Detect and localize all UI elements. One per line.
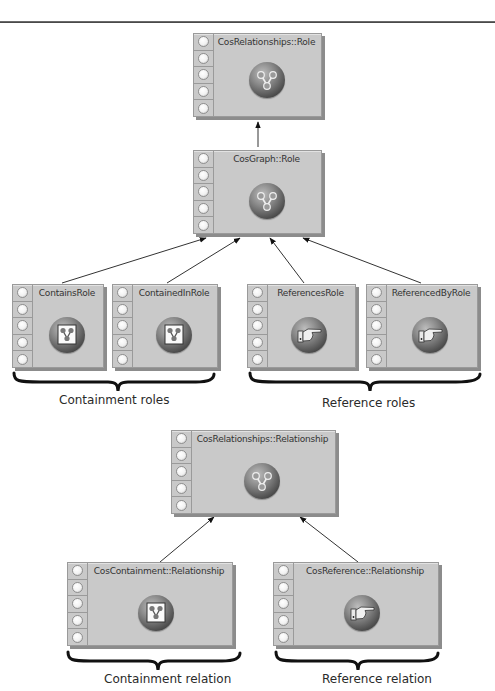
port[interactable] — [172, 464, 191, 481]
containment-icon — [49, 317, 85, 353]
port[interactable] — [113, 285, 132, 302]
port[interactable] — [194, 84, 213, 101]
port-column — [367, 285, 387, 367]
node-containedin-role[interactable]: ContainedInRole — [112, 284, 218, 368]
brace-reference-relation — [276, 652, 438, 670]
port[interactable] — [194, 201, 213, 218]
brace-reference-roles — [250, 373, 480, 391]
port[interactable] — [172, 431, 191, 448]
node-referencedby-role[interactable]: ReferencedByRole — [366, 284, 478, 368]
node-title: CosRelationships::Role — [214, 37, 319, 47]
brace-containment-roles — [14, 373, 214, 391]
port[interactable] — [367, 302, 386, 319]
port[interactable] — [274, 596, 293, 613]
pointing-hand-icon — [412, 317, 448, 353]
port-column — [194, 34, 214, 116]
port[interactable] — [248, 351, 267, 367]
port[interactable] — [367, 335, 386, 352]
node-title: ContainedInRole — [133, 288, 215, 298]
port[interactable] — [194, 184, 213, 201]
containment-icon — [156, 317, 192, 353]
port[interactable] — [68, 613, 87, 630]
port[interactable] — [194, 151, 213, 168]
port[interactable] — [274, 563, 293, 580]
port-column — [113, 285, 133, 367]
port[interactable] — [248, 302, 267, 319]
port[interactable] — [113, 335, 132, 352]
caption-reference-relation: Reference relation — [322, 672, 432, 686]
port[interactable] — [194, 67, 213, 84]
node-cosrelationships-relationship[interactable]: CosRelationships::Relationship — [171, 430, 336, 514]
containment-icon — [138, 595, 174, 631]
node-cosrelationships-role[interactable]: CosRelationships::Role — [193, 33, 322, 117]
port[interactable] — [113, 351, 132, 367]
port[interactable] — [274, 580, 293, 597]
caption-containment-relation: Containment relation — [104, 672, 231, 686]
node-cosgraph-role[interactable]: CosGraph::Role — [193, 150, 322, 234]
port[interactable] — [194, 168, 213, 185]
brace-containment-relation — [68, 652, 240, 670]
graph-node-icon — [244, 463, 280, 499]
port[interactable] — [68, 629, 87, 645]
port[interactable] — [68, 563, 87, 580]
graph-node-icon — [249, 62, 285, 98]
port[interactable] — [172, 448, 191, 465]
pointing-hand-icon — [344, 595, 380, 631]
edge-referencedby-to-graph — [303, 238, 421, 283]
port[interactable] — [172, 497, 191, 513]
edge-containedin-to-graph — [167, 238, 240, 283]
port[interactable] — [367, 285, 386, 302]
node-title: ReferencedByRole — [387, 288, 475, 298]
node-title: CosGraph::Role — [214, 154, 319, 164]
edge-containment-to-relationship — [160, 517, 214, 562]
node-title: CosReference::Relationship — [294, 566, 436, 576]
caption-containment-roles: Containment roles — [59, 393, 170, 407]
port[interactable] — [113, 302, 132, 319]
node-title: CosRelationships::Relationship — [192, 434, 333, 444]
node-title: ReferencesRole — [268, 288, 353, 298]
port[interactable] — [68, 596, 87, 613]
node-cosreference-relationship[interactable]: CosReference::Relationship — [273, 562, 439, 646]
port-column — [194, 151, 214, 233]
edge-contains-to-graph — [62, 238, 206, 283]
pointing-hand-icon — [291, 317, 327, 353]
port[interactable] — [194, 34, 213, 51]
graph-node-icon — [249, 183, 285, 219]
port[interactable] — [194, 100, 213, 116]
port[interactable] — [194, 51, 213, 68]
node-contains-role[interactable]: ContainsRole — [12, 284, 104, 368]
node-references-role[interactable]: ReferencesRole — [247, 284, 356, 368]
port[interactable] — [367, 351, 386, 367]
port[interactable] — [248, 285, 267, 302]
port[interactable] — [367, 318, 386, 335]
port-column — [68, 563, 88, 645]
edge-reference-to-relationship — [300, 517, 358, 562]
caption-reference-roles: Reference roles — [322, 396, 415, 410]
port[interactable] — [248, 335, 267, 352]
port[interactable] — [194, 217, 213, 233]
port-column — [274, 563, 294, 645]
port[interactable] — [172, 481, 191, 498]
port-column — [248, 285, 268, 367]
port[interactable] — [248, 318, 267, 335]
port[interactable] — [13, 335, 32, 352]
port-column — [13, 285, 33, 367]
port[interactable] — [274, 629, 293, 645]
port[interactable] — [13, 318, 32, 335]
port[interactable] — [13, 351, 32, 367]
port[interactable] — [68, 580, 87, 597]
port[interactable] — [13, 285, 32, 302]
node-coscontainment-relationship[interactable]: CosContainment::Relationship — [67, 562, 233, 646]
port[interactable] — [13, 302, 32, 319]
edge-references-to-graph — [270, 238, 304, 283]
port[interactable] — [113, 318, 132, 335]
node-title: CosContainment::Relationship — [88, 566, 230, 576]
port[interactable] — [274, 613, 293, 630]
node-title: ContainsRole — [33, 288, 101, 298]
port-column — [172, 431, 192, 513]
